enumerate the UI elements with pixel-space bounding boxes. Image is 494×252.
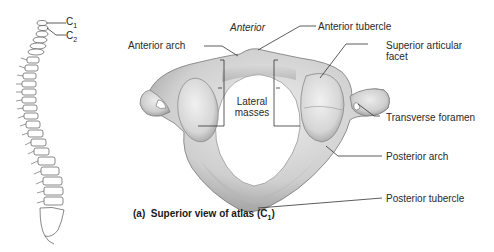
superior-articular-facet-label: Superior articular facet xyxy=(386,40,462,62)
atlas-diagram: C1 C2 xyxy=(0,0,494,252)
anterior-label: Anterior xyxy=(230,22,265,33)
anterior-arch-label: Anterior arch xyxy=(128,40,185,51)
posterior-arch-label: Posterior arch xyxy=(386,151,448,162)
anterior-tubercle-label: Anterior tubercle xyxy=(318,21,391,32)
lateral-masses-label: Lateral masses xyxy=(230,96,274,118)
posterior-tubercle-label: Posterior tubercle xyxy=(386,193,464,204)
figure-caption: (a) Superior view of atlas (C1) xyxy=(133,208,275,221)
transverse-foramen-label: Transverse foramen xyxy=(386,112,475,123)
